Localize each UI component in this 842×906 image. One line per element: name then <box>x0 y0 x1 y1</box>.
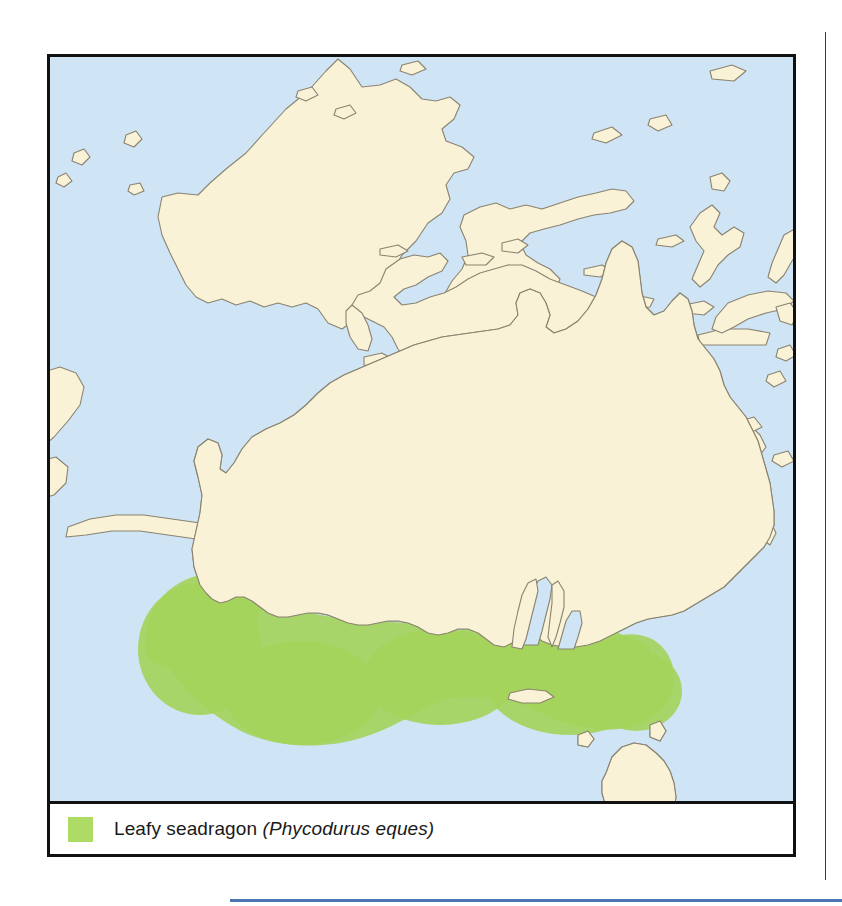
range-map-figure: Leafy seadragon (Phycodurus eques) <box>47 54 796 857</box>
column-divider-rule <box>825 32 826 880</box>
range-color-swatch <box>68 817 93 842</box>
map-svg <box>50 57 793 801</box>
map-viewport[interactable] <box>50 57 793 801</box>
legend-label: Leafy seadragon (Phycodurus eques) <box>114 818 434 840</box>
map-legend: Leafy seadragon (Phycodurus eques) <box>50 801 793 854</box>
legend-common-name: Leafy seadragon <box>114 818 257 839</box>
legend-scientific-name: (Phycodurus eques) <box>262 818 434 839</box>
bottom-accent-rule <box>230 899 842 902</box>
page-canvas: Leafy seadragon (Phycodurus eques) <box>0 0 842 906</box>
